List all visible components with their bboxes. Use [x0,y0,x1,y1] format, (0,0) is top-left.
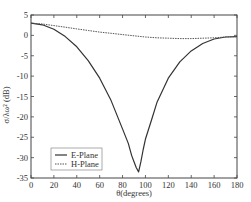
x-tick-label: 160 [208,180,221,190]
legend: E-Plane H-Plane [51,148,102,170]
y-axis-ticks: 50-5-10-15-20-25-30-35 [17,10,237,183]
y-tick-label: -25 [17,132,28,142]
h-plane-line [31,23,237,38]
y-tick-label: 0 [24,30,28,40]
y-tick-label: -20 [17,112,28,122]
y-axis-label: σ/λω² (dB) [1,86,11,123]
y-tick-label: -35 [17,173,28,183]
rcs-line-chart: 50-5-10-15-20-25-30-35 02040608010012014… [0,0,251,202]
y-tick-label: -10 [17,71,28,81]
x-tick-label: 60 [95,180,104,190]
legend-h-plane-label: H-Plane [71,159,99,169]
x-tick-label: 20 [50,180,59,190]
x-tick-label: 120 [162,180,175,190]
y-tick-label: -30 [17,153,28,163]
y-tick-label: 5 [24,10,28,20]
x-tick-label: 40 [73,180,82,190]
x-tick-label: 140 [185,180,198,190]
y-tick-label: -15 [17,92,28,102]
y-tick-label: -5 [21,51,28,61]
x-tick-label: 180 [231,180,244,190]
x-tick-label: 0 [29,180,33,190]
x-axis-label: θ(degrees) [116,188,152,198]
